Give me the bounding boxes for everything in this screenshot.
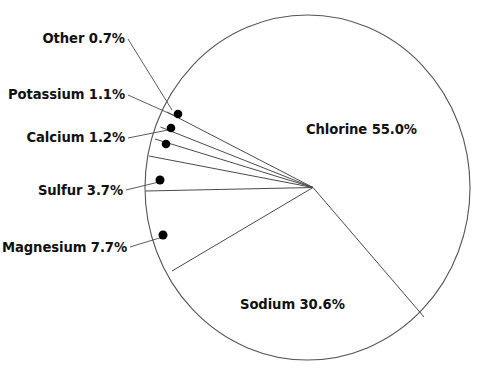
slice-label-potassium: Potassium 1.1%	[8, 87, 125, 102]
slice-label-magnesium: Magnesium 7.7%	[2, 240, 127, 255]
pie-chart-figure: Other 0.7% Potassium 1.1% Calcium 1.2% S…	[0, 0, 485, 369]
slice-label-calcium: Calcium 1.2%	[26, 130, 125, 145]
slice-edge-sulfur-calcium	[149, 156, 313, 188]
slice-edge-sodium-magnesium	[172, 188, 313, 272]
slice-edge-potassium-other	[161, 127, 314, 188]
marker-dot-other	[174, 110, 183, 119]
slice-label-sulfur: Sulfur 3.7%	[38, 183, 123, 198]
slice-label-chlorine: Chlorine 55.0%	[306, 122, 417, 137]
slice-label-other: Other 0.7%	[42, 31, 125, 46]
marker-dot-calcium	[162, 140, 171, 149]
slice-edge-magnesium-sulfur	[146, 188, 314, 192]
pie-chart-canvas: Other 0.7% Potassium 1.1% Calcium 1.2% S…	[0, 0, 485, 369]
leader-line-calcium	[128, 130, 168, 138]
marker-dot-potassium	[167, 124, 176, 133]
slice-label-sodium: Sodium 30.6%	[240, 297, 345, 312]
leader-line-other	[128, 39, 172, 110]
marker-dot-sulfur	[156, 176, 165, 185]
marker-dot-magnesium	[159, 231, 168, 240]
